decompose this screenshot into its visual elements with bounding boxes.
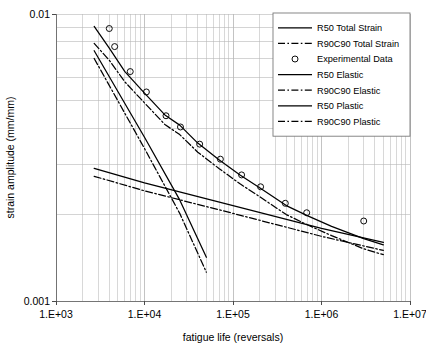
x-axis-tick-label: 1.E+04 bbox=[128, 308, 162, 320]
legend-label: R90C90 Elastic bbox=[317, 86, 381, 96]
chart-legend: R50 Total StrainR90C90 Total StrainExper… bbox=[273, 13, 410, 136]
x-axis-title: fatigue life (reversals) bbox=[183, 331, 283, 343]
x-axis-tick-label: 1.E+03 bbox=[39, 308, 73, 320]
legend-label: R50 Total Strain bbox=[317, 23, 382, 33]
y-axis-tick-label: 0.001 bbox=[24, 295, 50, 307]
y-axis-title: strain amplitude (mm/mm) bbox=[4, 97, 16, 219]
x-axis-tick-label: 1.E+06 bbox=[305, 308, 339, 320]
chart-canvas: 0.010.0011.E+031.E+041.E+051.E+061.E+07 … bbox=[0, 0, 426, 348]
legend-label: R90C90 Plastic bbox=[317, 117, 381, 127]
fatigue-strain-life-chart: 0.010.0011.E+031.E+041.E+051.E+061.E+07 … bbox=[0, 0, 426, 348]
legend-label: R50 Plastic bbox=[317, 101, 364, 111]
x-axis-tick-label: 1.E+07 bbox=[393, 308, 426, 320]
legend-label: R90C90 Total Strain bbox=[317, 39, 399, 49]
y-axis-tick-label: 0.01 bbox=[30, 8, 51, 20]
legend-label: R50 Elastic bbox=[317, 70, 364, 80]
legend-label: Experimental Data bbox=[317, 54, 393, 64]
x-axis-tick-label: 1.E+05 bbox=[216, 308, 250, 320]
